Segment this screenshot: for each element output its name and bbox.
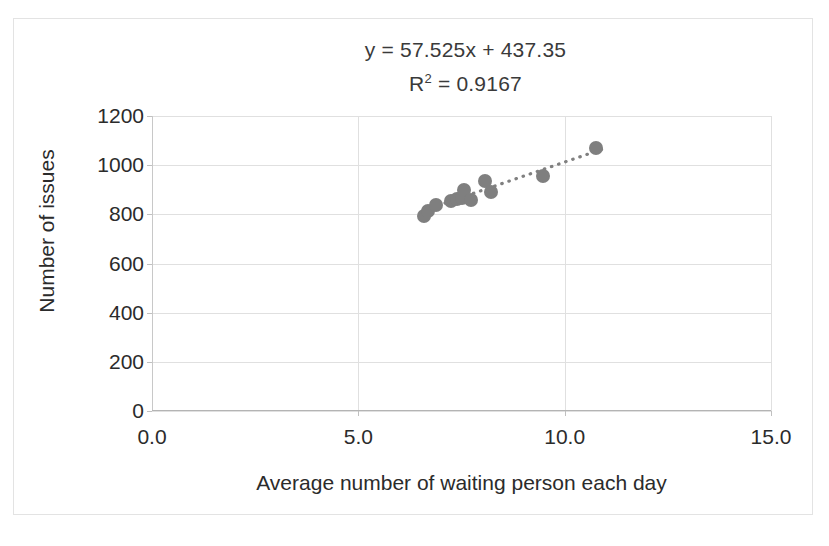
gridline-vertical	[771, 116, 772, 411]
x-axis-tick	[358, 411, 359, 416]
scatter-point	[429, 198, 443, 212]
y-axis-tick-label: 200	[74, 350, 144, 374]
regression-equation-text: y = 57.525x + 437.35	[119, 35, 812, 64]
x-axis-tick	[771, 411, 772, 416]
chart-figure: y = 57.525x + 437.35 R2 = 0.9167 0200400…	[13, 18, 813, 515]
x-axis-tick	[565, 411, 566, 416]
scatter-point	[536, 169, 550, 183]
x-axis-tick-labels: 0.05.010.015.0	[152, 425, 771, 455]
x-axis-tick-label: 5.0	[344, 425, 373, 449]
scatter-point	[484, 185, 498, 199]
y-axis-title: Number of issues	[35, 101, 59, 361]
x-axis-tick-label: 15.0	[751, 425, 792, 449]
y-axis-tick-label: 1000	[74, 153, 144, 177]
x-axis-tick-label: 0.0	[137, 425, 166, 449]
y-axis-tick	[147, 411, 152, 412]
scatter-point	[464, 193, 478, 207]
y-axis-tick-label: 0	[74, 399, 144, 423]
r-squared-exponent: 2	[424, 71, 431, 86]
gridline-horizontal	[152, 411, 771, 412]
y-axis-tick-label: 800	[74, 202, 144, 226]
r-squared-symbol: R	[409, 72, 424, 95]
y-axis-tick-label: 600	[74, 252, 144, 276]
x-axis-title: Average number of waiting person each da…	[152, 471, 771, 495]
scatter-point	[589, 141, 603, 155]
r-squared-value: = 0.9167	[432, 72, 522, 95]
x-axis-tick-label: 10.0	[544, 425, 585, 449]
y-axis-tick-labels: 020040060080010001200	[72, 116, 144, 411]
trendline-annotation: y = 57.525x + 437.35 R2 = 0.9167	[14, 35, 812, 98]
scatter-markers	[152, 116, 771, 411]
r-squared-text: R2 = 0.9167	[119, 64, 812, 98]
y-axis-tick-label: 400	[74, 301, 144, 325]
y-axis-tick-label: 1200	[74, 104, 144, 128]
plot-area	[152, 116, 771, 411]
